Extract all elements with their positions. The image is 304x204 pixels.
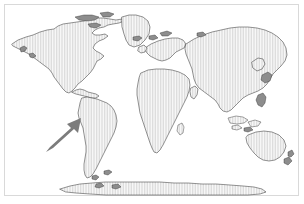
landmass-south-america — [78, 97, 117, 180]
landmass-north-america — [12, 17, 126, 98]
landmass-antarctica — [60, 182, 266, 195]
landmass-greenland — [122, 15, 150, 47]
figure-container — [0, 0, 304, 204]
landmass-new-zealand — [284, 150, 294, 165]
landmass-asia — [185, 27, 287, 112]
arrow-annotation[interactable] — [46, 118, 81, 152]
landmass-africa — [137, 69, 198, 153]
world-map[interactable] — [0, 0, 304, 204]
landmass-australia — [246, 131, 286, 161]
